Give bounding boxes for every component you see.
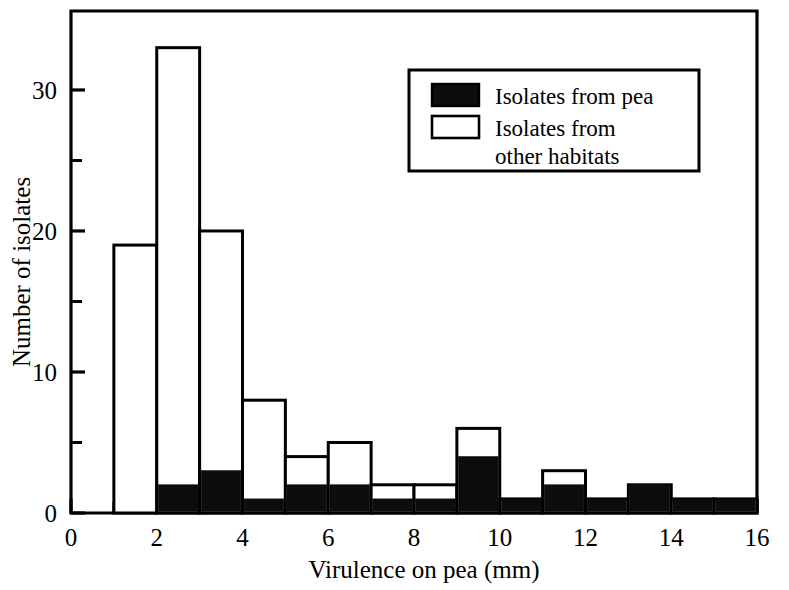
legend-label-other-line2: other habitats	[495, 144, 620, 169]
x-tick-label: 10	[487, 524, 512, 551]
legend-label-other-line1: Isolates from	[495, 116, 616, 141]
y-tick-label: 0	[45, 500, 58, 527]
x-tick-label: 6	[322, 524, 335, 551]
x-tick-label: 4	[236, 524, 249, 551]
legend-swatch-pea-icon	[432, 84, 479, 106]
x-tick-label: 12	[573, 524, 598, 551]
x-tick-label: 8	[408, 524, 421, 551]
histogram-bar-pea-segment	[587, 499, 627, 512]
histogram-bar-pea-segment	[287, 485, 327, 512]
histogram-bar-pea-segment	[373, 499, 413, 512]
histogram-bar	[243, 400, 286, 513]
x-axis-title: Virulence on pea (mm)	[308, 556, 539, 584]
legend-swatch-other-icon	[432, 116, 479, 138]
histogram-bar-pea-segment	[501, 499, 541, 512]
histogram-bar-pea-segment	[673, 499, 713, 512]
chart-legend: Isolates from pea Isolates from other ha…	[409, 70, 699, 171]
legend-label-pea: Isolates from pea	[495, 84, 653, 109]
histogram-bar-pea-segment	[201, 471, 241, 512]
histogram-bar-pea-segment	[244, 499, 284, 512]
histogram-bar-pea-segment	[544, 485, 584, 512]
histogram-bar-pea-segment	[630, 485, 670, 512]
histogram-bar	[114, 245, 157, 513]
x-tick-label: 2	[151, 524, 164, 551]
histogram-bar	[157, 48, 200, 513]
histogram-bar-pea-segment	[330, 485, 370, 512]
y-axis-tick-labels: 0102030	[32, 77, 57, 527]
histogram-figure: 0102030 0246810121416 Virulence on pea (…	[0, 0, 789, 590]
histogram-bar-pea-segment	[458, 457, 498, 512]
x-tick-label: 16	[745, 524, 770, 551]
histogram-bar-pea-segment	[158, 485, 198, 512]
y-axis-ticks	[71, 90, 85, 513]
x-tick-label: 14	[659, 524, 685, 551]
x-tick-label: 0	[65, 524, 78, 551]
y-tick-label: 20	[32, 218, 57, 245]
y-tick-label: 10	[32, 359, 57, 386]
chart-canvas: 0102030 0246810121416 Virulence on pea (…	[0, 0, 789, 590]
y-axis-title: Number of isolates	[8, 177, 35, 367]
histogram-bar-pea-segment	[416, 499, 456, 512]
histogram-bar-pea-segment	[716, 499, 756, 512]
y-tick-label: 30	[32, 77, 57, 104]
x-axis-tick-labels: 0246810121416	[65, 524, 770, 551]
